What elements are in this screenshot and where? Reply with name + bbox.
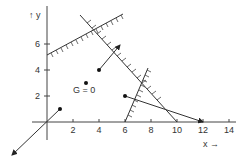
- y-tick-label: 6: [35, 39, 40, 49]
- point-1-1: [58, 107, 62, 111]
- x-tick-label: 10: [172, 125, 182, 135]
- x-tick-label: 4: [96, 125, 101, 135]
- vectors: [12, 45, 203, 155]
- constraint-line-3: [125, 68, 151, 122]
- y-ticks: 2 4 6: [35, 39, 50, 101]
- y-axis-label: ↑ y: [29, 10, 41, 20]
- x-tick-label: 6: [122, 125, 127, 135]
- y-tick-label: 4: [35, 65, 40, 75]
- x-ticks: 2 4 6 8 10 12 14: [70, 119, 234, 135]
- optimization-diagram: 2 4 6 8 10 12 14 2 4 6 ↑ y x →: [0, 0, 250, 167]
- x-axis-label: x →: [203, 139, 219, 149]
- point-6-2: [123, 94, 127, 98]
- x-tick-label: 8: [148, 125, 153, 135]
- point-4-4: [97, 68, 101, 72]
- gradient-vector-6-2: [125, 96, 203, 122]
- constraint-line-2: [80, 15, 177, 122]
- g-zero-label: G = 0: [73, 85, 95, 95]
- gradient-vector-1-1: [12, 109, 60, 155]
- axes: 2 4 6 8 10 12 14 2 4 6 ↑ y x →: [29, 6, 236, 149]
- x-tick-label: 14: [224, 125, 234, 135]
- y-tick-label: 2: [35, 91, 40, 101]
- x-tick-label: 12: [198, 125, 208, 135]
- x-tick-label: 2: [70, 125, 75, 135]
- gradient-vector-4-4: [99, 45, 120, 70]
